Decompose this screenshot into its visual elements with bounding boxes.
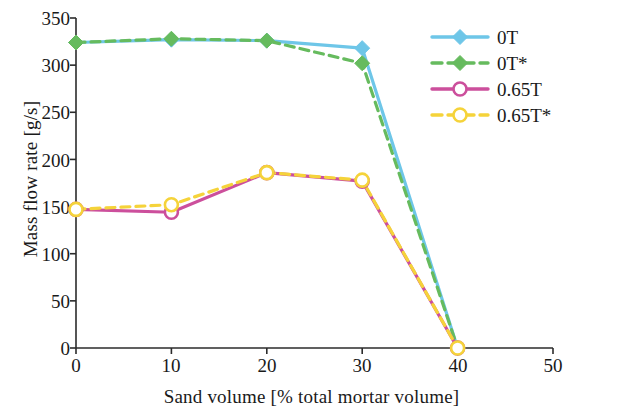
legend-item-065t-star: 0.65T*: [430, 102, 551, 128]
legend-swatch-0t-star: [430, 53, 490, 73]
legend-label: 0T: [497, 28, 518, 47]
legend-item-0t: 0T: [430, 24, 551, 50]
chart-figure: Mass flow rate [g/s] 0 50 100 150 200 25…: [0, 0, 623, 412]
data-series-layer: [69, 31, 466, 355]
legend-item-0t-star: 0T*: [430, 50, 551, 76]
legend-label: 0.65T*: [497, 106, 551, 125]
legend-label: 0T*: [497, 54, 528, 73]
legend-item-065t: 0.65T: [430, 76, 551, 102]
legend-swatch-0t: [430, 27, 490, 47]
legend-swatch-065t-star: [430, 105, 490, 125]
legend-label: 0.65T: [497, 80, 542, 99]
chart-legend: 0T 0T* 0.65T 0.65T*: [430, 24, 551, 128]
legend-swatch-065t: [430, 79, 490, 99]
